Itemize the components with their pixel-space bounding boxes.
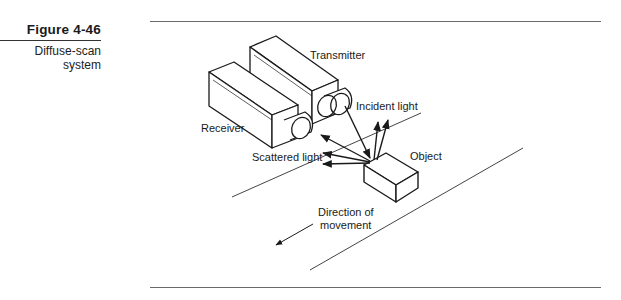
incident-light-label: Incident light bbox=[356, 100, 418, 112]
direction-label-line-1: Direction of bbox=[318, 206, 375, 218]
scattered-light-label: Scattered light bbox=[252, 151, 322, 163]
receiver-label: Receiver bbox=[201, 122, 245, 134]
transmitter-label: Transmitter bbox=[310, 49, 366, 61]
diffuse-scan-diagram: Transmitter Receiver Incident light Scat… bbox=[0, 0, 621, 300]
direction-arrow-icon bbox=[276, 224, 313, 245]
object-label: Object bbox=[410, 150, 442, 162]
scattered-arrow-3 bbox=[323, 163, 370, 164]
reflected-arrow-up-1 bbox=[374, 122, 378, 160]
direction-label-line-2: movement bbox=[320, 219, 371, 231]
